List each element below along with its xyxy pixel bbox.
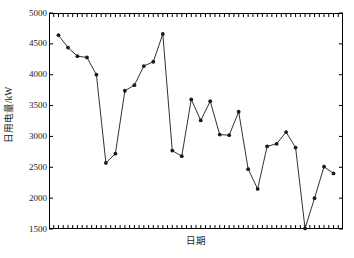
data-point-marker — [170, 149, 174, 153]
y-tick-label: 2500 — [14, 163, 47, 172]
data-point-marker — [284, 130, 288, 134]
data-point-marker — [85, 56, 89, 60]
chart-figure: 日用电量/kW 50004500400035003000250020001500… — [0, 0, 354, 258]
data-point-marker — [275, 142, 279, 146]
y-tick-label: 4000 — [14, 70, 47, 79]
data-point-marker — [180, 154, 184, 158]
data-point-marker — [123, 89, 127, 93]
plot-area — [49, 13, 343, 229]
data-point-marker — [132, 83, 136, 87]
y-tick-label: 2000 — [14, 194, 47, 203]
data-point-marker — [151, 60, 155, 64]
x-axis-title: 日期 — [49, 233, 343, 247]
y-axis-title-text: 日用电量/kW — [1, 86, 15, 142]
data-point-marker — [303, 226, 307, 230]
data-point-marker — [313, 196, 317, 200]
y-tick-label: 3500 — [14, 101, 47, 110]
y-tick-label: 3000 — [14, 132, 47, 141]
data-series-line — [49, 13, 343, 229]
data-point-marker — [199, 118, 203, 122]
data-point-marker — [161, 32, 165, 36]
data-point-marker — [256, 187, 260, 191]
series-polyline — [58, 34, 333, 228]
data-point-marker — [66, 46, 70, 50]
y-tick-label: 5000 — [14, 9, 47, 18]
data-point-marker — [246, 167, 250, 171]
data-point-marker — [142, 64, 146, 68]
data-point-marker — [294, 146, 298, 150]
data-point-marker — [76, 54, 80, 58]
data-point-marker — [227, 133, 231, 137]
data-point-marker — [57, 33, 61, 37]
y-tick-label: 4500 — [14, 39, 47, 48]
data-point-marker — [95, 73, 99, 77]
data-point-marker — [265, 144, 269, 148]
data-point-marker — [332, 172, 336, 176]
data-point-marker — [208, 99, 212, 103]
y-tick-label: 1500 — [14, 225, 47, 234]
data-point-marker — [104, 161, 108, 165]
data-point-marker — [322, 165, 326, 169]
data-point-marker — [237, 110, 241, 114]
data-point-marker — [189, 98, 193, 102]
data-point-marker — [218, 133, 222, 137]
y-axis-tick-labels: 50004500400035003000250020001500 — [14, 0, 47, 240]
data-point-marker — [113, 152, 117, 156]
